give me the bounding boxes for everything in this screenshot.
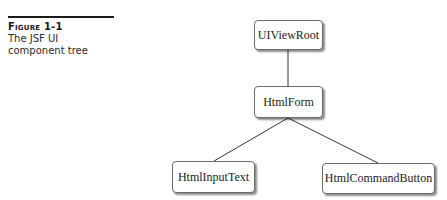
node-label: HtmlCommandButton — [325, 171, 432, 186]
node-htmlform: HtmlForm — [254, 86, 323, 118]
edge-form-button — [288, 118, 378, 163]
node-htmlinputtext: HtmlInputText — [172, 161, 255, 193]
node-uiviewroot: UIViewRoot — [254, 20, 323, 50]
edge-form-input — [214, 118, 288, 161]
node-label: UIViewRoot — [258, 28, 319, 43]
node-label: HtmlForm — [263, 95, 314, 110]
node-htmlcommandbutton: HtmlCommandButton — [322, 163, 435, 194]
node-label: HtmlInputText — [178, 170, 249, 185]
